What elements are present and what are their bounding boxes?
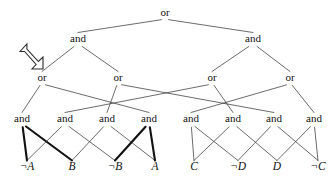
tree-edge — [195, 127, 238, 161]
gate-node-or[interactable]: or — [113, 71, 123, 83]
tree-edge — [122, 85, 274, 113]
tree-edge — [191, 127, 194, 160]
tree-edge — [69, 126, 115, 160]
edge-layer — [22, 20, 318, 161]
tree-edge — [292, 85, 314, 112]
diagram-canvas: orandandororororandandandandandandandand… — [0, 0, 331, 190]
tree-edge — [257, 47, 290, 72]
gate-node-and[interactable]: and — [225, 112, 241, 124]
gate-node-and[interactable]: and — [99, 112, 115, 124]
gate-node-and[interactable]: and — [183, 112, 199, 124]
leaf-node[interactable]: ¬A — [20, 160, 36, 172]
tree-edge — [22, 86, 40, 113]
tree-edge — [191, 85, 287, 113]
tree-edge — [45, 85, 149, 113]
gate-node-or[interactable]: or — [160, 6, 170, 18]
gate-node-or[interactable]: or — [37, 71, 47, 83]
gate-node-and[interactable]: and — [266, 112, 282, 124]
tree-edge — [42, 47, 74, 72]
leaf-node[interactable]: ¬D — [230, 160, 247, 172]
leaf-node[interactable]: C — [190, 160, 198, 172]
gate-node-and[interactable]: and — [57, 112, 73, 124]
tree-edge — [278, 127, 318, 161]
and-or-tree-svg: orandandororororandandandandandandandand… — [0, 0, 331, 190]
tree-edge — [23, 127, 27, 160]
leaf-node[interactable]: ¬B — [108, 160, 123, 172]
tree-edge — [214, 86, 233, 113]
leaf-node[interactable]: ¬C — [310, 160, 326, 172]
tree-edge — [212, 46, 249, 71]
gate-node-and[interactable]: and — [141, 112, 157, 124]
tree-edge — [78, 20, 161, 33]
tree-edge — [26, 126, 72, 160]
gate-node-and[interactable]: and — [14, 112, 30, 124]
arrow-down-right-icon — [20, 44, 43, 69]
tree-edge — [107, 86, 117, 113]
tree-edge — [82, 46, 118, 71]
tree-edge — [111, 127, 155, 161]
pointer-layer — [20, 44, 43, 69]
leaf-node[interactable]: D — [272, 160, 282, 172]
tree-edge — [115, 127, 146, 161]
gate-node-and[interactable]: and — [245, 32, 261, 44]
gate-node-or[interactable]: or — [285, 71, 295, 83]
gate-node-and[interactable]: and — [70, 32, 86, 44]
tree-edge — [150, 127, 155, 160]
leaf-node[interactable]: A — [150, 160, 159, 172]
tree-edge — [277, 127, 310, 161]
leaf-node[interactable]: B — [68, 160, 75, 172]
gate-node-or[interactable]: or — [207, 71, 217, 83]
tree-edge — [169, 20, 253, 33]
tree-edge — [65, 85, 208, 113]
gate-node-and[interactable]: and — [306, 112, 322, 124]
tree-edge — [315, 127, 318, 160]
tree-edge — [194, 127, 229, 161]
